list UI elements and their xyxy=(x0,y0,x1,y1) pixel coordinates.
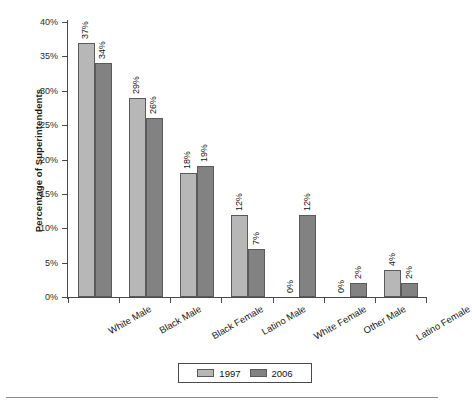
bar-1997 xyxy=(129,98,146,297)
bar-value-label: 2% xyxy=(404,266,414,279)
bar-value-label: 34% xyxy=(97,42,107,60)
legend-swatch-1997 xyxy=(197,369,214,377)
x-axis-tick-mark xyxy=(324,297,325,303)
bar-value-label: 19% xyxy=(199,145,209,163)
x-axis-category-label: Other Male xyxy=(362,303,408,336)
x-axis-category-label: Latino Male xyxy=(260,303,308,337)
bar-group: 0%12% xyxy=(282,22,316,297)
x-axis-category-label: Black Female xyxy=(210,303,265,341)
legend-item: 2006 xyxy=(250,368,293,379)
legend-item: 1997 xyxy=(197,368,240,379)
bar-value-label: 37% xyxy=(80,21,90,39)
x-axis-tick-mark xyxy=(119,297,120,303)
bar-1997 xyxy=(180,173,197,297)
bar-value-label: 2% xyxy=(353,266,363,279)
x-axis-line xyxy=(67,297,427,298)
x-axis-tick-mark xyxy=(68,297,69,303)
bar-group: 4%2% xyxy=(384,22,418,297)
bar-value-label: 0% xyxy=(336,280,346,293)
x-axis-tick-mark xyxy=(273,297,274,303)
bar-value-label: 18% xyxy=(182,152,192,170)
bar-group: 12%7% xyxy=(231,22,265,297)
y-axis-tick-label: 25% xyxy=(24,120,58,130)
bar-2006 xyxy=(197,166,214,297)
y-axis-tick-label: 5% xyxy=(24,258,58,268)
y-axis-tick-label: 15% xyxy=(24,189,58,199)
bar-value-label: 26% xyxy=(148,97,158,115)
y-axis-tick-label: 40% xyxy=(24,17,58,27)
footer-divider xyxy=(6,397,438,398)
bar-1997 xyxy=(78,43,95,297)
bar-group: 0%2% xyxy=(333,22,367,297)
bar-1997 xyxy=(384,270,401,298)
x-axis-category-label: Latino Female xyxy=(414,303,472,343)
bar-2006 xyxy=(401,283,418,297)
bar-value-label: 4% xyxy=(387,253,397,266)
legend-label-1997: 1997 xyxy=(219,368,240,379)
bar-value-label: 0% xyxy=(285,280,295,293)
bar-2006 xyxy=(146,118,163,297)
bar-group: 18%19% xyxy=(180,22,214,297)
bar-value-label: 12% xyxy=(234,193,244,211)
bar-group: 37%34% xyxy=(78,22,112,297)
y-axis-tick-label: 10% xyxy=(24,223,58,233)
bar-1997 xyxy=(231,215,248,298)
x-axis-category-label: White Female xyxy=(312,303,368,342)
y-axis-tick-label: 30% xyxy=(24,86,58,96)
x-axis-category-label: Black Male xyxy=(157,303,203,336)
x-axis-tick-mark xyxy=(426,297,427,303)
legend-label-2006: 2006 xyxy=(272,368,293,379)
y-axis-tick-label: 20% xyxy=(24,155,58,165)
y-axis-tick-label: 35% xyxy=(24,51,58,61)
x-axis-category-label: White Male xyxy=(106,303,153,336)
x-axis-tick-mark xyxy=(375,297,376,303)
bar-2006 xyxy=(350,283,367,297)
y-axis-tick-label: 0% xyxy=(24,292,58,302)
bar-group: 29%26% xyxy=(129,22,163,297)
legend-swatch-2006 xyxy=(250,369,267,377)
bar-2006 xyxy=(95,63,112,297)
x-axis-tick-mark xyxy=(221,297,222,303)
bar-value-label: 7% xyxy=(251,232,261,245)
bar-2006 xyxy=(248,249,265,297)
plot-area: 37%34%29%26%18%19%12%7%0%12%0%2%4%2% xyxy=(68,22,426,297)
bar-value-label: 29% xyxy=(131,76,141,94)
x-axis-tick-mark xyxy=(170,297,171,303)
chart-legend: 1997 2006 xyxy=(178,363,312,383)
bar-value-label: 12% xyxy=(302,193,312,211)
bar-2006 xyxy=(299,215,316,298)
